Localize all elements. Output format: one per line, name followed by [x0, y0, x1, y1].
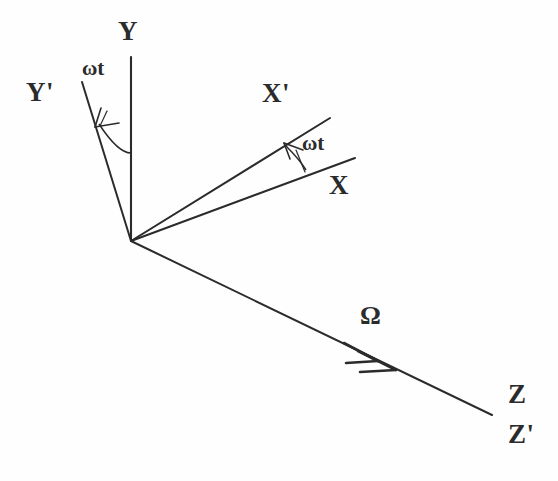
angle-arc-y-to-y-prime	[99, 124, 131, 153]
axis-line-x-prime	[131, 118, 330, 241]
axis-line-z	[131, 241, 492, 415]
axis-line-y-prime	[82, 82, 131, 241]
rotating-frame-diagram: Y Y' X' X Z Z' ωt ωt Ω	[0, 0, 558, 481]
angle-arc-y-tick	[100, 111, 107, 126]
axis-line-x	[131, 158, 355, 241]
vector-label-omega: Ω	[360, 303, 381, 329]
axis-label-z: Z	[508, 381, 527, 408]
axis-label-x-prime: X'	[262, 80, 290, 107]
angle-arc-y-arrowhead-barb-1	[95, 108, 101, 127]
axis-label-y-prime: Y'	[26, 79, 54, 106]
axis-label-z-prime: Z'	[508, 421, 535, 448]
axis-label-y: Y	[118, 18, 138, 45]
angle-arc-y-arrowhead-barb-2	[95, 123, 119, 127]
omega-vector-arrowhead	[344, 343, 396, 372]
angle-label-omega-t-left: ωt	[82, 58, 104, 79]
axis-label-x: X	[329, 172, 349, 199]
angle-label-omega-t-right: ωt	[302, 133, 324, 154]
